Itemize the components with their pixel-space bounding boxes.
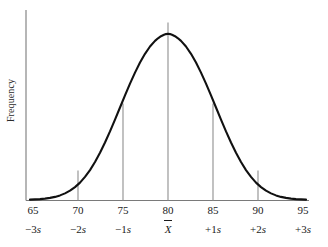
tick-group-70: 70 −2s bbox=[55, 203, 101, 237]
tick-group-80: 80 X bbox=[145, 203, 191, 237]
tick-sigma-95: +3s bbox=[280, 221, 326, 237]
tick-sigma-70: −2s bbox=[55, 221, 101, 237]
tick-sigma-65: −3s bbox=[10, 221, 56, 237]
tick-sigma-unit-75: s bbox=[127, 223, 131, 235]
tick-group-90: 90 +2s bbox=[235, 203, 281, 237]
tick-group-95: 95 +3s bbox=[280, 203, 326, 237]
tick-sigma-unit-65: s bbox=[37, 223, 41, 235]
tick-sigma-unit-85: s bbox=[217, 223, 221, 235]
tick-sigma-75: −1s bbox=[100, 221, 146, 237]
tick-value-80: 80 bbox=[145, 203, 191, 218]
tick-value-65: 65 bbox=[10, 203, 56, 218]
x-axis-tick-labels: 65 −3s 70 −2s 75 −1s 80 X 85 +1s 90 +2s … bbox=[0, 203, 328, 247]
tick-group-65: 65 −3s bbox=[10, 203, 56, 237]
tick-sigma-unit-70: s bbox=[82, 223, 86, 235]
tick-group-75: 75 −1s bbox=[100, 203, 146, 237]
tick-value-85: 85 bbox=[190, 203, 236, 218]
tick-value-90: 90 bbox=[235, 203, 281, 218]
tick-sigma-unit-90: s bbox=[262, 223, 266, 235]
tick-group-85: 85 +1s bbox=[190, 203, 236, 237]
tick-sigma-90: +2s bbox=[235, 221, 281, 237]
tick-value-95: 95 bbox=[280, 203, 326, 218]
tick-sigma-80: X bbox=[145, 221, 191, 237]
tick-sigma-85: +1s bbox=[190, 221, 236, 237]
tick-sigma-unit-95: s bbox=[307, 223, 311, 235]
tick-value-75: 75 bbox=[100, 203, 146, 218]
normal-distribution-figure: Frequency 65 −3s 70 −2s 75 −1s 80 X bbox=[0, 0, 328, 247]
tick-value-70: 70 bbox=[55, 203, 101, 218]
x-bar-symbol: X bbox=[164, 221, 173, 237]
